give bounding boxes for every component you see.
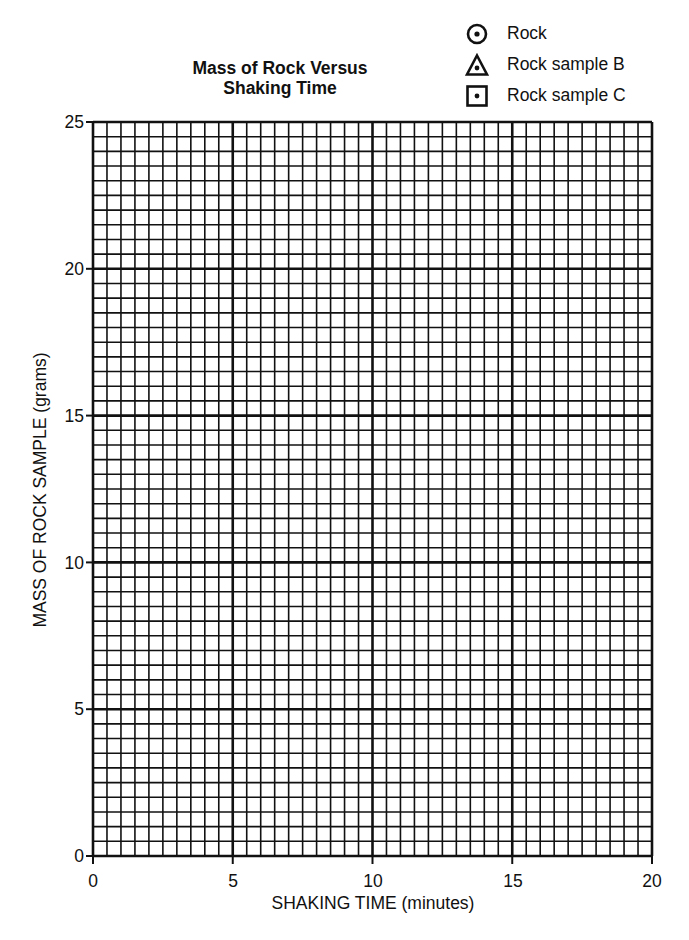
y-tick-5: 5: [74, 699, 84, 720]
x-tick-15: 15: [503, 871, 522, 892]
y-tick-20: 20: [65, 259, 84, 280]
y-axis-label: MASS OF ROCK SAMPLE (grams): [30, 352, 51, 627]
y-tick-10: 10: [65, 553, 84, 574]
x-tick-10: 10: [363, 871, 382, 892]
y-tick-15: 15: [65, 406, 84, 427]
plot-area: [0, 0, 689, 940]
y-tick-25: 25: [65, 112, 84, 133]
y-tick-0: 0: [74, 846, 84, 867]
x-tick-20: 20: [642, 871, 661, 892]
x-axis-label: SHAKING TIME (minutes): [272, 893, 475, 914]
x-tick-5: 5: [228, 871, 238, 892]
x-tick-0: 0: [88, 871, 98, 892]
